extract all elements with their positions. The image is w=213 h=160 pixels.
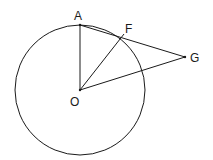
point-a (79, 24, 81, 26)
label-g: G (190, 51, 199, 65)
geometry-diagram: A F G O (0, 0, 213, 160)
point-o (79, 89, 81, 91)
segment-of (80, 34, 124, 90)
point-g (184, 56, 186, 58)
label-f: F (125, 22, 132, 36)
segment-og (80, 57, 185, 90)
label-a: A (74, 9, 82, 23)
label-o: O (70, 95, 79, 109)
